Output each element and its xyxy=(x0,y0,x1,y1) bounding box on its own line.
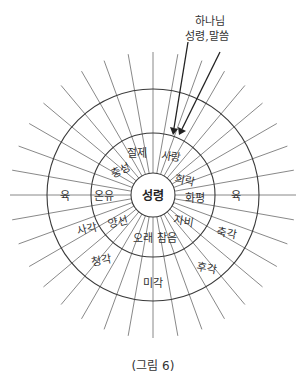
figure-caption: (그림 6) xyxy=(132,359,175,373)
center-label: 성령 xyxy=(142,189,164,203)
label-goodness: 양선 xyxy=(107,214,130,232)
label-touch: 축각 xyxy=(216,225,238,241)
label-smell: 후각 xyxy=(196,260,218,276)
spirit-diagram: 하나님 성령,말씀 성령 절제 사랑 충성 희락 온유 화평 양선 자비 오래 … xyxy=(0,0,305,382)
label-self-control: 절제 xyxy=(127,147,147,160)
label-patience: 오래 참음 xyxy=(133,232,177,245)
label-flesh-right: 육 xyxy=(231,190,241,203)
label-flesh-left: 육 xyxy=(60,190,70,203)
top-label-line1: 하나님 xyxy=(195,14,225,28)
arrow-line-1 xyxy=(174,42,188,128)
label-love: 사랑 xyxy=(160,149,182,165)
label-sight: 사각 xyxy=(76,221,99,239)
label-kindness: 자비 xyxy=(173,213,195,229)
label-faithfulness: 충성 xyxy=(108,160,132,180)
label-peace: 화평 xyxy=(185,192,205,205)
label-gentleness: 온유 xyxy=(94,190,114,203)
top-label-line2: 성령,말씀 xyxy=(185,30,229,43)
label-hearing: 청각 xyxy=(90,252,112,268)
arrowhead-1 xyxy=(170,127,178,135)
label-taste: 미각 xyxy=(143,277,163,290)
